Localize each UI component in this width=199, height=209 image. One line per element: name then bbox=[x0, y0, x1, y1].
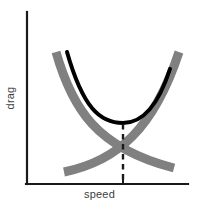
chart-canvas bbox=[0, 0, 199, 209]
drag-vs-speed-chart: drag speed bbox=[0, 0, 199, 209]
x-axis-label: speed bbox=[0, 188, 199, 200]
y-axis-label: drag bbox=[4, 75, 16, 121]
